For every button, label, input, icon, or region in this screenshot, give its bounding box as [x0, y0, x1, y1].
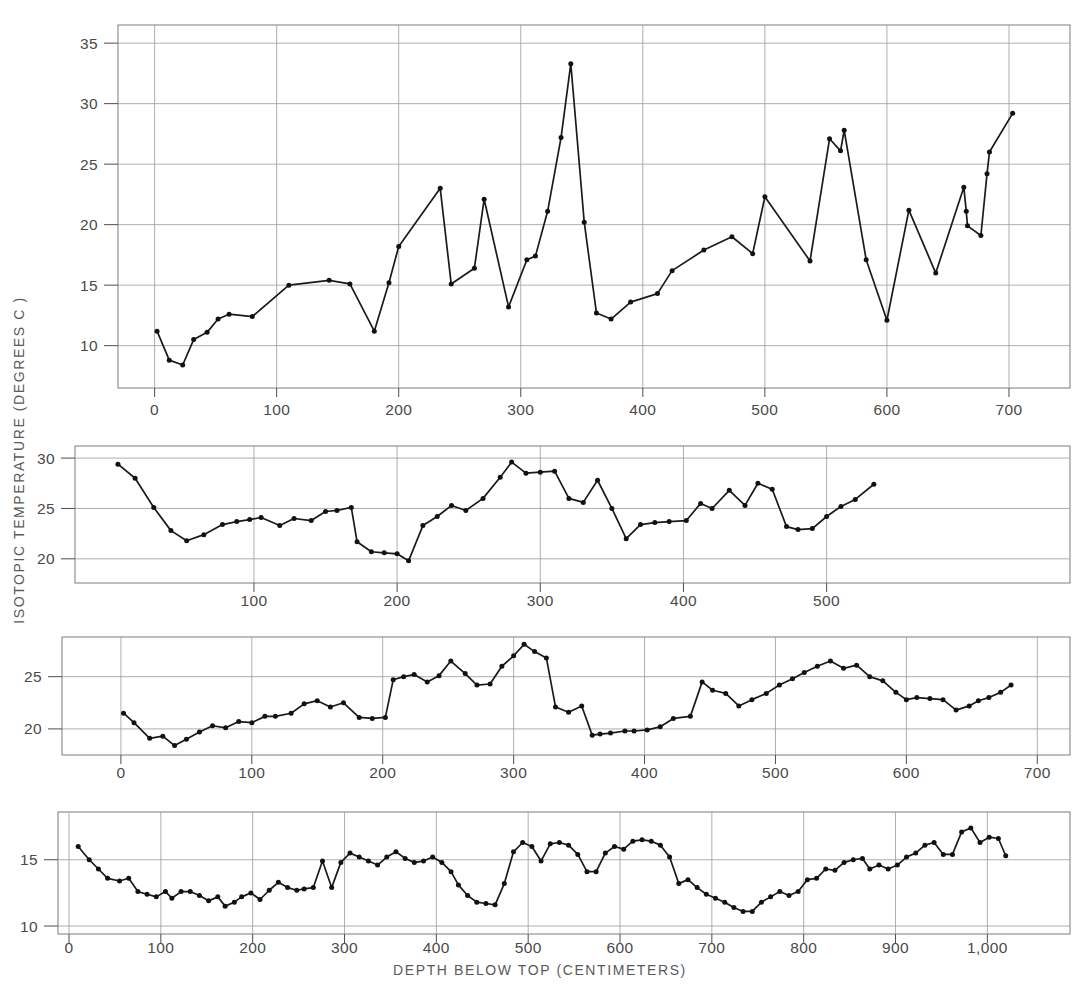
data-point: [824, 514, 829, 519]
x-tick-label: 100: [238, 764, 265, 781]
data-point: [357, 855, 362, 860]
data-point: [867, 867, 872, 872]
data-point: [750, 909, 755, 914]
data-point: [482, 197, 487, 202]
data-point: [147, 736, 152, 741]
data-point: [582, 220, 587, 225]
data-point: [722, 900, 727, 905]
data-point: [493, 902, 498, 907]
x-tick-label: 500: [515, 939, 542, 956]
data-point: [206, 898, 211, 903]
data-point: [548, 841, 553, 846]
x-tick-label: 0: [150, 401, 159, 418]
data-point: [743, 503, 748, 508]
data-point: [628, 300, 633, 305]
data-point: [509, 460, 514, 465]
data-point: [828, 659, 833, 664]
data-point: [463, 508, 468, 513]
data-point: [603, 851, 608, 856]
data-point: [784, 524, 789, 529]
data-point: [289, 711, 294, 716]
data-point: [315, 698, 320, 703]
x-axis-title: DEPTH BELOW TOP (CENTIMETERS): [393, 962, 687, 978]
plot-frame: [58, 812, 1070, 934]
data-point: [329, 885, 334, 890]
data-point: [671, 716, 676, 721]
data-point: [406, 558, 411, 563]
data-point: [622, 728, 627, 733]
data-point: [437, 673, 442, 678]
data-point: [959, 829, 964, 834]
data-point: [553, 704, 558, 709]
data-point: [383, 715, 388, 720]
data-point: [867, 674, 872, 679]
data-point: [700, 679, 705, 684]
x-tick-label: 900: [882, 939, 909, 956]
data-point: [595, 478, 600, 483]
x-tick-label: 300: [507, 401, 534, 418]
data-point: [854, 663, 859, 668]
data-point: [302, 701, 307, 706]
data-point: [895, 863, 900, 868]
data-point: [338, 860, 343, 865]
data-point: [369, 549, 374, 554]
data-point: [968, 825, 973, 830]
x-tick-label: 300: [331, 939, 358, 956]
data-point: [713, 896, 718, 901]
data-point: [704, 892, 709, 897]
data-point: [941, 697, 946, 702]
data-point: [393, 849, 398, 854]
data-point: [184, 737, 189, 742]
data-point: [670, 268, 675, 273]
data-point: [435, 514, 440, 519]
data-point: [105, 876, 110, 881]
data-point: [538, 470, 543, 475]
data-point: [341, 700, 346, 705]
data-point: [188, 889, 193, 894]
data-point: [667, 855, 672, 860]
data-point: [612, 844, 617, 849]
data-point: [286, 283, 291, 288]
data-point: [438, 186, 443, 191]
data-point: [777, 889, 782, 894]
data-point: [133, 476, 138, 481]
data-point: [347, 281, 352, 286]
data-point: [736, 703, 741, 708]
data-point: [810, 526, 815, 531]
x-tick-label: 500: [751, 401, 778, 418]
data-point: [777, 683, 782, 688]
y-tick-label: 25: [80, 156, 98, 173]
data-point: [366, 859, 371, 864]
data-point: [210, 723, 215, 728]
data-point: [449, 869, 454, 874]
data-point: [965, 223, 970, 228]
plot-frame: [118, 25, 1070, 388]
data-point: [506, 304, 511, 309]
data-point: [155, 329, 160, 334]
data-point: [348, 851, 353, 856]
data-point: [403, 856, 408, 861]
y-tick-label: 10: [20, 918, 38, 935]
y-tick-label: 20: [80, 216, 98, 233]
data-point: [236, 719, 241, 724]
data-point: [978, 840, 983, 845]
data-point: [532, 649, 537, 654]
data-point: [481, 496, 486, 501]
data-series-line: [124, 644, 1012, 745]
x-tick-label: 400: [629, 401, 656, 418]
data-point: [832, 868, 837, 873]
x-tick-label: 700: [698, 939, 725, 956]
data-point: [463, 671, 468, 676]
data-point: [876, 863, 881, 868]
data-point: [160, 734, 165, 739]
data-point: [309, 518, 314, 523]
data-point: [425, 679, 430, 684]
data-series-line: [157, 64, 1013, 365]
data-point: [762, 194, 767, 199]
data-point: [449, 281, 454, 286]
data-point: [273, 714, 278, 719]
data-point: [640, 837, 645, 842]
data-point: [755, 481, 760, 486]
data-point: [524, 257, 529, 262]
x-tick-label: 600: [606, 939, 633, 956]
